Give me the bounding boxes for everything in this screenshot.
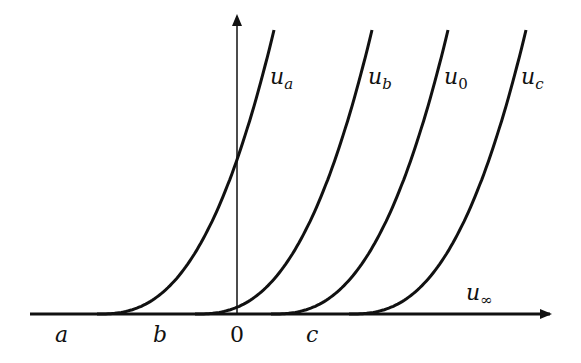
curve-u-0: [271, 30, 448, 314]
tick-label-a: a: [55, 324, 68, 346]
tick-label-c: c: [306, 324, 318, 346]
u-infinity-label: u∞: [466, 282, 493, 304]
curve-label-u0: u0: [444, 66, 468, 88]
tick-label-b: b: [153, 324, 167, 346]
diagram-canvas: [0, 0, 581, 363]
curve-label-ub: ub: [368, 66, 392, 88]
figure: ua ub u0 uc u∞ a b 0 c: [0, 0, 581, 363]
tick-label-zero: 0: [230, 324, 244, 346]
curve-label-uc: uc: [521, 66, 544, 88]
curve-label-ua: ua: [270, 66, 293, 88]
curve-u-a: [97, 30, 274, 314]
